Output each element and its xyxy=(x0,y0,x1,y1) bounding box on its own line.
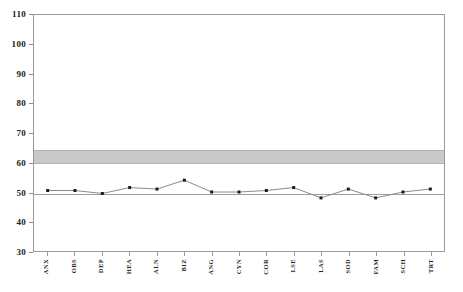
x-tick-label-sod: SOD xyxy=(345,259,352,274)
series-markers xyxy=(46,179,432,200)
x-axis: ANXOBSDEPHEAALNBIZANGCYNCORLSELASSODFAMS… xyxy=(33,252,445,292)
data-point xyxy=(374,196,377,199)
y-tick-label: 40 xyxy=(16,218,26,227)
x-tick-mark xyxy=(102,252,103,256)
plot-area xyxy=(33,14,445,252)
x-tick-label-anx: ANX xyxy=(43,259,50,274)
x-tick-label-trt: TRT xyxy=(428,259,435,273)
x-tick-label-obs: OBS xyxy=(71,259,78,273)
x-tick-mark xyxy=(239,252,240,256)
x-tick-label-ang: ANG xyxy=(208,259,215,275)
data-point xyxy=(402,191,405,194)
x-tick-mark xyxy=(157,252,158,256)
x-tick-mark xyxy=(212,252,213,256)
data-point xyxy=(101,192,104,195)
x-tick-label-sch: SCH xyxy=(400,259,407,274)
series-line xyxy=(48,180,431,198)
x-tick-mark xyxy=(184,252,185,256)
y-tick-label: 30 xyxy=(16,248,26,257)
x-tick-label-cor: COR xyxy=(263,259,270,275)
y-tick-label: 110 xyxy=(12,10,26,19)
x-tick-label-dep: DEP xyxy=(98,259,105,273)
x-tick-mark xyxy=(266,252,267,256)
x-tick-mark xyxy=(376,252,377,256)
data-point xyxy=(156,188,159,191)
data-point xyxy=(265,189,268,192)
data-point xyxy=(429,188,432,191)
x-tick-label-cyn: CYN xyxy=(236,259,243,274)
x-tick-label-hea: HEA xyxy=(126,259,133,274)
x-tick-label-aln: ALN xyxy=(153,259,160,274)
x-tick-mark xyxy=(74,252,75,256)
data-point xyxy=(210,191,213,194)
x-tick-mark xyxy=(349,252,350,256)
data-series-layer xyxy=(34,15,444,251)
x-tick-mark xyxy=(129,252,130,256)
y-tick-label: 100 xyxy=(12,39,26,48)
data-point xyxy=(74,189,77,192)
y-tick-label: 50 xyxy=(16,188,26,197)
x-tick-mark xyxy=(294,252,295,256)
data-point xyxy=(292,186,295,189)
data-point xyxy=(183,179,186,182)
data-point xyxy=(238,191,241,194)
chart-container: 30405060708090100110 ANXOBSDEPHEAALNBIZA… xyxy=(0,0,463,292)
data-point xyxy=(320,196,323,199)
y-tick-label: 80 xyxy=(16,99,26,108)
x-tick-mark xyxy=(47,252,48,256)
x-tick-label-fam: FAM xyxy=(373,259,380,275)
data-point xyxy=(347,188,350,191)
data-point xyxy=(46,189,49,192)
x-tick-mark xyxy=(404,252,405,256)
y-tick-label: 60 xyxy=(16,158,26,167)
x-tick-mark xyxy=(321,252,322,256)
x-tick-label-las: LAS xyxy=(318,259,325,273)
x-tick-mark xyxy=(431,252,432,256)
y-tick-label: 70 xyxy=(16,129,26,138)
data-point xyxy=(128,186,131,189)
x-tick-label-biz: BIZ xyxy=(181,259,188,271)
y-axis: 30405060708090100110 xyxy=(0,0,33,292)
y-tick-label: 90 xyxy=(16,69,26,78)
x-tick-label-lse: LSE xyxy=(290,259,297,273)
